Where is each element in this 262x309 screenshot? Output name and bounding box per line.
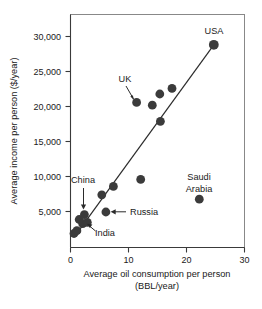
annotation-label-usa: USA [205, 26, 225, 36]
scatter-plot-figure: 30,000 25,000 20,000 15,000 10,000 5,000… [0, 0, 262, 309]
y-tick-label-15000: 15,000 [33, 137, 61, 147]
annotation-label-saudi-arabia-line2: Arabia [186, 184, 213, 194]
y-tick-label-20000: 20,000 [33, 102, 61, 112]
data-point-usa [209, 40, 219, 50]
annotation-label-uk: UK [119, 74, 133, 84]
y-axis-title: Average income per person ($/year) [9, 58, 19, 205]
x-tick-label-10: 10 [123, 255, 133, 265]
data-point [168, 84, 177, 93]
x-tick-label-0: 0 [68, 255, 73, 265]
x-axis-title-line2: (BBL/year) [135, 281, 179, 291]
annotation-arrowhead-uk [130, 95, 134, 100]
y-tick-label-25000: 25,000 [33, 67, 61, 77]
annotation-arrowhead-russia [111, 209, 116, 214]
x-tick-label-20: 20 [181, 255, 191, 265]
trend-line [80, 45, 214, 230]
chart-canvas: 30,000 25,000 20,000 15,000 10,000 5,000… [0, 0, 262, 309]
x-axis-title-line1: Average oil consumption per person [84, 269, 231, 279]
annotation-label-china: China [71, 175, 96, 185]
data-point [97, 190, 106, 199]
y-tick-label-10000: 10,000 [33, 172, 61, 182]
data-point-saudi-arabia [195, 195, 204, 204]
x-tick-label-30: 30 [239, 255, 249, 265]
data-point [148, 101, 157, 110]
y-tick-label-30000: 30,000 [33, 32, 61, 42]
data-point [73, 226, 82, 235]
data-point [156, 117, 165, 126]
data-point [155, 90, 164, 99]
annotation-label-india: India [95, 228, 116, 238]
annotation-arrowhead-china [81, 204, 86, 209]
data-point [109, 182, 118, 191]
annotation-label-saudi-arabia-line1: Saudi [187, 172, 211, 182]
data-point-china [80, 210, 89, 219]
data-point [136, 175, 145, 184]
data-point-russia [102, 208, 111, 217]
y-tick-label-5000: 5,000 [38, 207, 61, 217]
annotation-label-russia: Russia [130, 207, 159, 217]
